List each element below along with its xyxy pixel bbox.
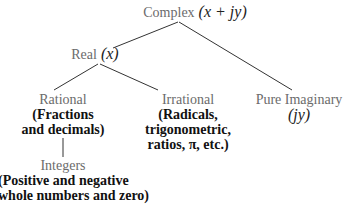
integers-desc-2: whole numbers and zero) (0, 188, 128, 203)
irrational-desc-2: trigonometric, (133, 122, 243, 137)
irrational-desc-1: (Radicals, (133, 107, 243, 122)
pure-imaginary-label: Pure Imaginary (252, 92, 346, 107)
edge-complex-pure-imaginary (179, 22, 292, 90)
node-rational: Rational (Fractions and decimals) (13, 92, 113, 137)
complex-expr: (x + jy) (199, 3, 247, 20)
node-real: Real (x) (60, 46, 130, 62)
complex-label: Complex (143, 5, 194, 20)
node-irrational: Irrational (Radicals, trigonometric, rat… (133, 92, 243, 152)
real-expr: (x) (101, 45, 119, 62)
node-complex: Complex (x + jy) (135, 4, 255, 20)
integers-desc-1: (Positive and negative (0, 173, 128, 188)
node-pure-imaginary: Pure Imaginary (jy) (252, 92, 346, 122)
rational-desc-2: and decimals) (13, 122, 113, 137)
rational-desc-1: (Fractions (13, 107, 113, 122)
edge-real-rational (54, 64, 98, 90)
edge-real-irrational (100, 64, 158, 90)
rational-label: Rational (13, 92, 113, 107)
irrational-label: Irrational (133, 92, 243, 107)
pure-imaginary-expr: (jy) (252, 107, 346, 122)
real-label: Real (71, 47, 97, 62)
integers-label: Integers (0, 158, 128, 173)
node-integers: Integers (Positive and negative whole nu… (0, 158, 128, 203)
edge-complex-real (113, 22, 178, 48)
irrational-desc-3: ratios, π, etc.) (133, 137, 243, 152)
